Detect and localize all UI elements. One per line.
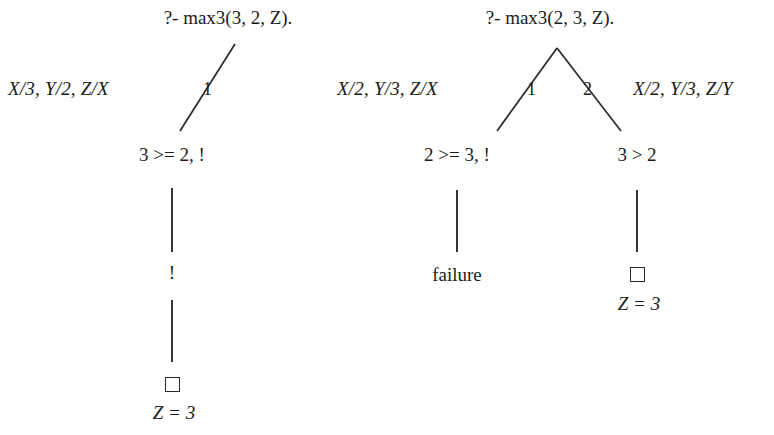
right-tree-query: ?- max3(2, 3, Z).: [486, 8, 615, 27]
left-tree-substitution-label: X/3, Y/2, Z/X: [8, 79, 109, 98]
right-tree-empty-clause-box: [630, 267, 645, 282]
left-tree-empty-clause-box: [165, 377, 180, 392]
left-tree-query: ?- max3(3, 2, Z).: [164, 8, 293, 27]
left-tree-goal-node-2: !: [169, 263, 175, 282]
left-tree-goal-node-1: 3 >= 2, !: [139, 145, 205, 164]
tree-edges: [0, 0, 774, 435]
right-tree-answer-substitution: Z = 3: [618, 294, 660, 313]
right-tree-clause-number-2: 2: [583, 80, 592, 98]
right-tree-right-substitution-label: X/2, Y/3, Z/Y: [633, 79, 733, 98]
right-tree-clause-number-1: 1: [527, 80, 536, 98]
right-tree-left-substitution-label: X/2, Y/3, Z/X: [337, 79, 438, 98]
right-tree-failure-leaf: failure: [432, 265, 482, 284]
right-tree-left-goal-node: 2 >= 3, !: [424, 145, 490, 164]
figure-canvas: ?- max3(3, 2, Z). X/3, Y/2, Z/X 1 3 >= 2…: [0, 0, 774, 435]
left-tree-answer-substitution: Z = 3: [153, 403, 195, 422]
left-tree-clause-number-1: 1: [203, 80, 212, 98]
right-tree-right-goal-node: 3 > 2: [617, 145, 656, 164]
